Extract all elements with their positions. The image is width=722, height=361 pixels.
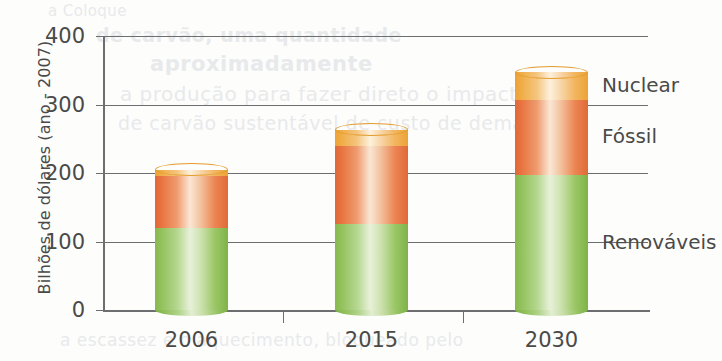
bar-top-cap [155,163,228,176]
x-axis-tick-label: 2006 [165,328,218,352]
legend-label-renovveis: Renováveis [602,230,716,254]
gridline [103,36,648,37]
y-axis-tick-label: 0 [72,298,85,322]
bar-top-cap [515,66,588,79]
bar-segment-fssil [155,176,228,227]
bar-segment-fssil [335,146,408,224]
bar-column [155,170,228,310]
y-axis-tick: 400 [96,36,104,37]
legend-label-nuclear: Nuclear [602,73,679,97]
energy-investment-chart: a Coloque de carvão, uma quantidade apro… [0,0,722,361]
y-axis-tick: 300 [96,105,104,106]
x-axis-tick [283,310,284,323]
bar-segment-renovveis [335,224,408,310]
y-axis-tick: 200 [96,173,104,174]
y-axis-line [103,36,105,312]
bar-segment-renovveis [155,228,228,310]
y-axis-tick-label: 100 [45,230,85,254]
y-axis-tick: 0 [96,310,104,311]
legend-label-fssil: Fóssil [602,124,657,148]
bar-segment-fssil [515,100,588,175]
bar-column [515,72,588,310]
background-bleed-text: a escassez e o aquecimento, bloqueado pe… [60,330,464,350]
background-bleed-text: a Coloque [48,2,127,20]
x-axis-tick-label: 2015 [345,328,398,352]
bar-segment-renovveis [515,175,588,310]
x-axis-tick-label: 2030 [525,328,578,352]
bar-column [335,130,408,310]
y-axis-tick: 100 [96,242,104,243]
plot-area: 4003002001000 200620152030 RenováveisFós… [103,36,648,310]
x-axis-tick [463,310,464,323]
y-axis-tick-label: 200 [45,161,85,185]
y-axis-tick-label: 400 [45,24,85,48]
y-axis-tick-label: 300 [45,93,85,117]
